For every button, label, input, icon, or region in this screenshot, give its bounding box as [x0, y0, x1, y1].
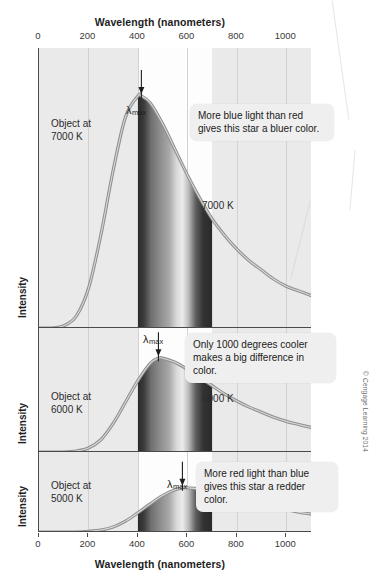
lambda-max-subscript: max — [173, 482, 187, 491]
bottom-axis-title: Wavelength (nanometers) — [0, 558, 320, 570]
tick-mark-400 — [137, 533, 138, 537]
tick-label-200: 200 — [80, 538, 96, 549]
temp-label-7000k: 7000 K — [202, 200, 234, 211]
copyright-notice: © Cengage Learning 2014 — [362, 371, 369, 452]
tick-label-200: 200 — [80, 30, 96, 41]
lambda-glyph: λ — [167, 478, 173, 490]
lambda-max-subscript: max — [132, 108, 146, 117]
tick-mark-200 — [87, 533, 88, 537]
tick-label-800: 800 — [228, 538, 244, 549]
tick-label-0: 0 — [35, 30, 40, 41]
tick-label-0: 0 — [35, 538, 40, 549]
tick-label-400: 400 — [129, 538, 145, 549]
object-label-6000k: Object at 6000 K — [51, 391, 91, 416]
blackbody-radiation-figure: Wavelength (nanometers) 0200400600800100… — [0, 0, 371, 585]
y-axis-label-6000k: Intensity — [17, 403, 28, 444]
panel-7000k: Object at 7000 K 7000 K — [38, 48, 311, 328]
lambda-max-arrow-icon — [39, 48, 311, 328]
lambda-max-label-6000k: λmax — [143, 333, 163, 346]
lambda-max-label-5000k: λmax — [167, 478, 187, 491]
lambda-max-subscript: max — [149, 337, 163, 346]
tick-mark-1000 — [285, 533, 286, 537]
lambda-glyph: λ — [126, 104, 132, 116]
temp-label-6000k: 6000 K — [202, 393, 234, 404]
tick-label-1000: 1000 — [275, 30, 296, 41]
tick-label-600: 600 — [178, 538, 194, 549]
lambda-max-label-7000k: λmax — [126, 104, 146, 117]
callout-5000k: More red light than blue gives this star… — [196, 462, 338, 512]
callout-6000k: Only 1000 degrees cooler makes a big dif… — [185, 333, 336, 383]
tick-mark-600 — [186, 533, 187, 537]
top-axis-title: Wavelength (nanometers) — [0, 16, 320, 28]
tick-mark-0 — [38, 533, 39, 537]
scan-artifact — [349, 150, 355, 210]
tick-label-1000: 1000 — [275, 538, 296, 549]
tick-label-400: 400 — [129, 30, 145, 41]
tick-label-800: 800 — [228, 30, 244, 41]
y-axis-label-7000k: Intensity — [17, 277, 28, 318]
scan-artifact — [332, 1, 350, 120]
callout-7000k: More blue light than red gives this star… — [190, 104, 334, 141]
object-label-7000k: Object at 7000 K — [51, 118, 91, 143]
bottom-tick-labels: 02004006008001000 — [0, 538, 371, 550]
baseline-5000k — [39, 531, 311, 532]
y-axis-label-5000k: Intensity — [17, 486, 28, 527]
tick-mark-800 — [236, 533, 237, 537]
top-tick-labels: 02004006008001000 — [0, 30, 371, 42]
tick-label-600: 600 — [178, 30, 194, 41]
lambda-glyph: λ — [143, 333, 149, 345]
object-label-5000k: Object at 5000 K — [51, 480, 91, 505]
